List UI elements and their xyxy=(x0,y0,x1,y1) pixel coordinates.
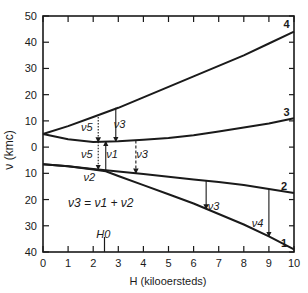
x-tick-label: 8 xyxy=(241,257,247,269)
curve-label-2: 2 xyxy=(281,180,287,192)
curves: 4321 xyxy=(43,18,294,250)
y-axis-label: ν (kmc) xyxy=(2,130,16,169)
x-axis-label: H (kilooersteds) xyxy=(129,275,206,287)
y-tick-label: 40 xyxy=(25,36,37,48)
x-tick-label: 6 xyxy=(191,257,197,269)
y-tick-label: 40 xyxy=(25,246,37,258)
y-tick-label: 0 xyxy=(31,141,37,153)
x-tick-label: 7 xyxy=(216,257,222,269)
x-tick-label: 4 xyxy=(140,257,146,269)
x-tick-label: 0 xyxy=(40,257,46,269)
annotation: ν5 xyxy=(81,121,94,133)
x-tick-label: 5 xyxy=(165,257,171,269)
annotation: ν5 xyxy=(81,148,94,160)
chart: 5040302010010203040 012345678910 4321 ν5… xyxy=(0,0,308,293)
annotation: ν3 xyxy=(136,148,149,160)
y-tick-label: 30 xyxy=(25,62,37,74)
y-tick-label: 30 xyxy=(25,220,37,232)
annotation: ν1 xyxy=(106,148,118,160)
x-tick-label: 10 xyxy=(288,257,300,269)
x-tick-label: 2 xyxy=(90,257,96,269)
curve-label-3: 3 xyxy=(283,106,289,118)
annotation: ν2 xyxy=(84,171,96,183)
y-tick-label: 10 xyxy=(25,115,37,127)
annotation: ν4 xyxy=(252,217,264,229)
y-tick-label: 50 xyxy=(25,10,37,22)
curve-label-4: 4 xyxy=(283,18,290,30)
curve-label-1: 1 xyxy=(281,237,287,249)
x-ticks: 012345678910 xyxy=(40,16,300,269)
annotation: ν3 xyxy=(114,118,127,130)
x-tick-label: 3 xyxy=(115,257,121,269)
annotation: ν3 xyxy=(208,200,221,212)
curve-4 xyxy=(43,32,294,134)
y-tick-label: 10 xyxy=(25,167,37,179)
annotation: ν3 = ν1 + ν2 xyxy=(68,196,134,210)
x-tick-label: 9 xyxy=(266,257,272,269)
annotation: H0 xyxy=(96,228,111,240)
y-tick-label: 20 xyxy=(25,89,37,101)
y-tick-label: 20 xyxy=(25,194,37,206)
x-tick-label: 1 xyxy=(65,257,71,269)
